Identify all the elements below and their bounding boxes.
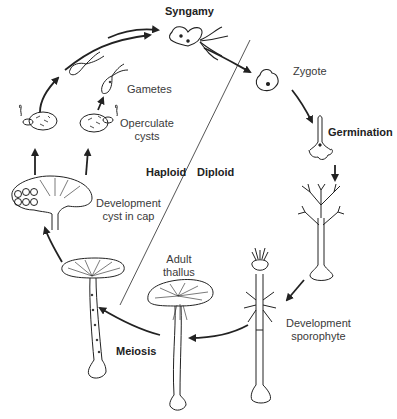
gamete-right-icon bbox=[102, 64, 128, 94]
arrow-left-gamete-to-syngamy bbox=[65, 35, 150, 70]
label-meiosis: Meiosis bbox=[116, 345, 156, 358]
label-development-sporophyte-line2: sporophyte bbox=[286, 330, 351, 343]
label-adult-thallus-line2: thallus bbox=[163, 266, 195, 279]
label-development-cyst-line1: Development bbox=[96, 197, 161, 210]
arrow-right-cyst-to-gamete bbox=[98, 98, 103, 110]
arrow-syngamy-to-zygote bbox=[204, 48, 250, 72]
label-gametes: Gametes bbox=[127, 83, 172, 96]
cycle-arrows bbox=[35, 29, 335, 338]
arrow-zygote-to-germination bbox=[292, 90, 312, 122]
label-adult-thallus: Adult thallus bbox=[163, 253, 195, 279]
arrow-adult-to-meiosis bbox=[100, 308, 160, 335]
arrow-sporophyte-to-adult bbox=[190, 325, 248, 338]
operculate-cyst-left-icon bbox=[19, 105, 57, 130]
syngamy-cell-icon bbox=[169, 27, 228, 60]
arrow-cap-to-right-cyst bbox=[86, 150, 88, 175]
label-development-cyst-line2: cyst in cap bbox=[96, 210, 161, 223]
developing-sporophyte-icon bbox=[244, 248, 276, 403]
label-operculate-cysts: Operculate cysts bbox=[120, 117, 174, 143]
label-operculate-cysts-line2: cysts bbox=[120, 130, 174, 143]
arrow-gametes-to-syngamy bbox=[108, 29, 158, 38]
arrow-meiosis-to-cyst-cap bbox=[45, 228, 62, 262]
meiosis-thallus-icon bbox=[62, 258, 124, 378]
label-development-sporophyte: Development sporophyte bbox=[286, 317, 351, 343]
zygote-cell-icon bbox=[256, 69, 278, 90]
label-syngamy: Syngamy bbox=[165, 5, 214, 18]
label-germination: Germination bbox=[328, 126, 393, 139]
adult-thallus-icon bbox=[148, 280, 213, 411]
label-zygote: Zygote bbox=[293, 65, 327, 78]
arrow-left-cyst-to-gamete bbox=[40, 78, 58, 112]
label-development-sporophyte-line1: Development bbox=[286, 317, 351, 330]
branching-sporophyte-icon bbox=[298, 184, 344, 281]
label-operculate-cysts-line1: Operculate bbox=[120, 117, 174, 130]
cyst-in-cap-icon bbox=[12, 176, 92, 230]
label-development-cyst: Development cyst in cap bbox=[96, 197, 161, 223]
label-diploid: Diploid bbox=[197, 166, 234, 179]
life-cycle-diagram bbox=[0, 0, 397, 419]
arrow-branching-to-sporophyte bbox=[287, 280, 304, 300]
label-haploid: Haploid bbox=[146, 166, 186, 179]
label-adult-thallus-line1: Adult bbox=[163, 253, 195, 266]
